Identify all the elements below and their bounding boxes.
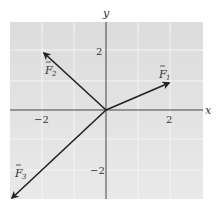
y-axis-label: y — [102, 7, 110, 20]
x-axis-label: x — [205, 104, 212, 117]
y-tick-2: 2 — [96, 46, 102, 57]
x-tick-2: 2 — [166, 114, 172, 125]
f1-subscript: 1 — [166, 74, 170, 82]
x-tick-neg2: −2 — [34, 114, 49, 125]
y-tick-neg2: −2 — [90, 165, 105, 176]
f3-subscript: 3 — [22, 173, 27, 181]
f2-subscript: 2 — [51, 70, 57, 78]
vector-diagram: x y −2 2 2 −2 F 1 F 2 F 3 — [0, 0, 216, 211]
